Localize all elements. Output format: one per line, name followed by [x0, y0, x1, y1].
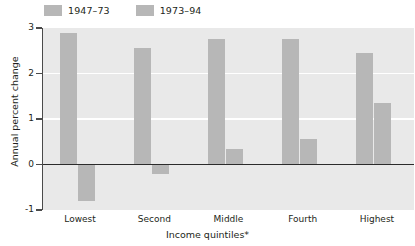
x-axis-title: Income quintiles*	[0, 229, 415, 240]
legend-swatch-series-2	[136, 5, 154, 16]
x-axis-category-label: Fourth	[266, 214, 340, 224]
zero-baseline	[43, 164, 414, 166]
y-axis-title: Annual percent change	[9, 42, 20, 182]
chart-legend: 1947–73 1973–94	[44, 1, 201, 19]
plot-area	[43, 28, 414, 210]
y-axis-tick	[36, 27, 42, 28]
y-axis-tick	[36, 209, 42, 210]
legend-label-series-1: 1947–73	[68, 5, 110, 16]
bar	[152, 165, 169, 174]
bar	[374, 103, 391, 164]
bar	[208, 39, 225, 164]
bar	[78, 165, 95, 201]
y-axis-tick	[36, 118, 42, 119]
legend-label-series-2: 1973–94	[160, 5, 202, 16]
bar	[300, 139, 317, 164]
y-axis-tick-label: -1	[10, 205, 34, 214]
chart-figure: 1947–73 1973–94 3210-1 Annual percent ch…	[0, 0, 415, 246]
bar	[226, 149, 243, 165]
y-axis-tick	[36, 164, 42, 165]
bar	[60, 33, 77, 165]
legend-item-series-2: 1973–94	[136, 5, 202, 16]
x-axis-category-label: Second	[117, 214, 191, 224]
x-axis-category-label: Middle	[191, 214, 265, 224]
bar	[356, 53, 373, 164]
bar	[134, 48, 151, 164]
legend-swatch-series-1	[44, 5, 62, 16]
x-axis-category-label: Highest	[340, 214, 414, 224]
x-axis-category-label: Lowest	[43, 214, 117, 224]
y-axis-tick-label: 3	[10, 23, 34, 32]
legend-item-series-1: 1947–73	[44, 5, 110, 16]
y-axis-tick	[36, 73, 42, 74]
bar	[282, 39, 299, 164]
